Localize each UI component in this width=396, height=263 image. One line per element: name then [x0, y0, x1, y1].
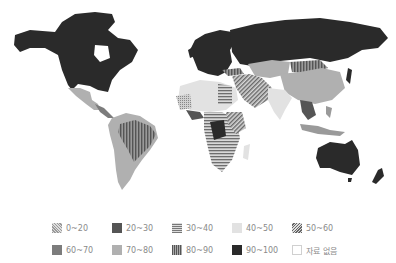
legend-row-2: 60~70 70~80 80~90 90~100 자료 없음 — [52, 242, 352, 258]
libya-egypt — [218, 84, 232, 104]
legend-item-90-100: 90~100 — [232, 242, 292, 258]
legend-item-0-20: 0~20 — [52, 220, 112, 236]
world-choropleth-map — [0, 0, 396, 205]
swatch-diagonal-icon — [292, 223, 302, 233]
swatch-solid-icon — [52, 245, 62, 255]
legend-item-40-50: 40~50 — [232, 220, 292, 236]
madagascar — [243, 144, 250, 160]
philippines — [326, 106, 332, 118]
swatch-empty-icon — [292, 245, 302, 255]
map-legend: 0~20 20~30 30~40 40~50 50~60 60~70 70~80 — [52, 220, 352, 263]
legend-item-60-70: 60~70 — [52, 242, 112, 258]
swatch-vstripes-icon — [172, 245, 182, 255]
swatch-solid-icon — [112, 223, 122, 233]
australia — [316, 140, 360, 175]
swatch-solid-icon — [232, 223, 242, 233]
legend-item-no-data: 자료 없음 — [292, 242, 352, 258]
indonesia — [300, 124, 345, 136]
north-america — [14, 12, 138, 92]
greenland — [120, 8, 150, 30]
west-africa-coast — [186, 110, 204, 120]
swatch-hstripes-icon — [172, 223, 182, 233]
japan — [346, 68, 352, 84]
legend-item-20-30: 20~30 — [112, 220, 172, 236]
swatch-solid-icon — [112, 245, 122, 255]
swatch-solid-icon — [232, 245, 242, 255]
europe — [190, 30, 236, 76]
swatch-dots-icon — [52, 223, 62, 233]
tasmania — [348, 178, 352, 182]
middle-east — [232, 74, 272, 108]
legend-item-70-80: 70~80 — [112, 242, 172, 258]
legend-row-1: 0~20 20~30 30~40 40~50 50~60 — [52, 220, 352, 236]
new-zealand — [372, 168, 384, 184]
russia — [230, 18, 388, 66]
mexico — [68, 88, 100, 110]
legend-item-80-90: 80~90 — [172, 242, 232, 258]
central-america — [95, 104, 114, 118]
west-africa — [176, 94, 192, 110]
legend-item-30-40: 30~40 — [172, 220, 232, 236]
legend-item-50-60: 50~60 — [292, 220, 352, 236]
